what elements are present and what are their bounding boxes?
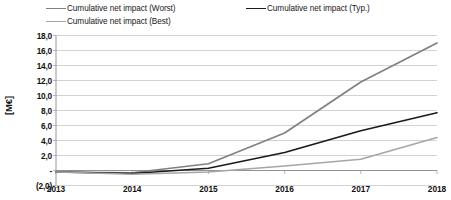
- data-series: [56, 43, 437, 174]
- series-line: [56, 113, 437, 174]
- gridlines: [56, 36, 437, 186]
- series-line: [56, 138, 437, 175]
